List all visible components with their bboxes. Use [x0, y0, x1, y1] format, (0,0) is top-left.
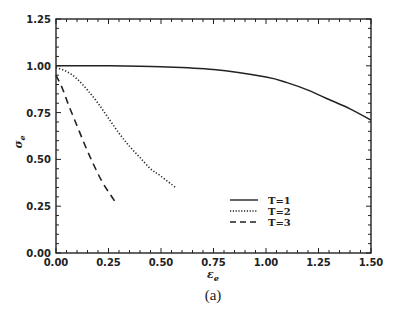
y-tick-label: 0.25 [26, 201, 51, 212]
chart: 0.000.250.500.751.001.251.50 0.000.250.5… [0, 0, 403, 317]
legend: T=1T=2T=3 [230, 195, 291, 228]
series-t-2 [56, 68, 176, 188]
x-axis-label: εe [207, 268, 219, 283]
x-tick-label: 1.00 [254, 257, 279, 268]
x-tick-label: 0.75 [201, 257, 226, 268]
series-t-3 [56, 75, 117, 204]
x-axis-ticks: 0.000.250.500.751.001.251.50 [44, 19, 384, 268]
x-tick-label: 1.50 [359, 257, 384, 268]
x-tick-label: 1.25 [306, 257, 331, 268]
y-tick-label: 0.75 [26, 108, 51, 119]
y-tick-label: 1.00 [26, 61, 51, 72]
plot-frame [56, 19, 371, 253]
y-tick-label: 1.25 [26, 14, 51, 25]
legend-label: T=2 [268, 206, 291, 217]
y-axis-ticks: 0.000.250.500.751.001.25 [26, 14, 371, 259]
legend-label: T=1 [268, 195, 291, 206]
figure-caption: (a) [205, 287, 222, 304]
x-tick-label: 0.25 [96, 257, 121, 268]
y-tick-label: 0.00 [26, 248, 51, 259]
series-t-1 [56, 66, 371, 120]
legend-label: T=3 [268, 217, 291, 228]
y-tick-label: 0.50 [26, 154, 51, 165]
series-layer [56, 66, 371, 205]
x-tick-label: 0.50 [149, 257, 174, 268]
y-axis-label: σe [12, 135, 27, 148]
plot-border [56, 19, 371, 253]
